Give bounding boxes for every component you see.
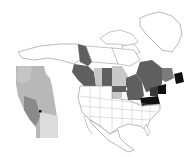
florida (144, 124, 150, 136)
newfoundland (174, 72, 184, 84)
point-marker (39, 110, 42, 113)
us-north-light (112, 92, 122, 98)
saskatchewan (102, 68, 112, 86)
alaska (18, 44, 80, 64)
labrador (162, 68, 174, 82)
us-great-lakes-dark (126, 90, 140, 100)
alberta-inset (16, 66, 58, 138)
greenland (140, 12, 182, 52)
map-figure (0, 0, 196, 157)
manitoba (112, 66, 128, 86)
british-columbia (72, 64, 96, 88)
arctic-islands (100, 30, 138, 46)
us-north-dark-1 (112, 86, 126, 92)
